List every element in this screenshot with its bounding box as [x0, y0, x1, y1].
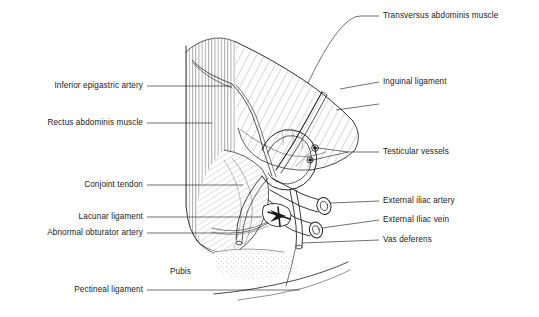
- label-pectineal-ligament: Pectineal ligament: [0, 286, 143, 294]
- label-rectus-abdominis-muscle: Rectus abdominis muscle: [0, 119, 143, 127]
- label-text: Conjoint tendon: [84, 180, 143, 189]
- leader-external-iliac-vein: [322, 220, 379, 228]
- label-testicular-vessels: Testicular vessels: [383, 148, 449, 156]
- label-pubis: Pubis: [170, 268, 191, 276]
- leader-external-iliac-artery: [331, 201, 379, 203]
- label-text: Rectus abdominis muscle: [47, 118, 143, 127]
- label-abnormal-obturator-artery: Abnormal obturator artery: [0, 229, 143, 237]
- anatomy-figure: Inferior epigastric artery Rectus abdomi…: [0, 0, 539, 317]
- leader-inguinal-ligament: [340, 82, 379, 89]
- leader-unlabelled-fascia: [336, 104, 379, 110]
- label-text: Vas deferens: [383, 235, 432, 244]
- label-external-iliac-artery: External iliac artery: [383, 197, 455, 205]
- label-text: Pubis: [170, 267, 191, 276]
- label-text: Abnormal obturator artery: [47, 228, 143, 237]
- label-conjoint-tendon: Conjoint tendon: [0, 181, 143, 189]
- label-inferior-epigastric-artery: Inferior epigastric artery: [0, 82, 143, 90]
- label-text: Pectineal ligament: [74, 285, 143, 294]
- leader-vas-deferens: [302, 240, 379, 243]
- leader-transversus-abdominis-muscle: [308, 16, 379, 83]
- anatomy-illustration: [0, 0, 539, 317]
- label-transversus-abdominis-muscle: Transversus abdominis muscle: [383, 12, 498, 20]
- lacunar-ligament: [262, 203, 291, 226]
- label-text: Transversus abdominis muscle: [383, 11, 498, 20]
- label-text: Inguinal ligament: [383, 77, 447, 86]
- label-text: External Iliac vein: [383, 215, 449, 224]
- label-vas-deferens: Vas deferens: [383, 236, 432, 244]
- label-text: Testicular vessels: [383, 147, 449, 156]
- label-text: Inferior epigastric artery: [54, 81, 143, 90]
- label-external-iliac-vein: External Iliac vein: [383, 216, 449, 224]
- label-text: External iliac artery: [383, 196, 455, 205]
- label-inguinal-ligament: Inguinal ligament: [383, 78, 447, 86]
- label-text: Lacunar ligament: [79, 212, 143, 221]
- transversus-abdominis-muscle: [230, 34, 362, 178]
- label-lacunar-ligament: Lacunar ligament: [0, 213, 143, 221]
